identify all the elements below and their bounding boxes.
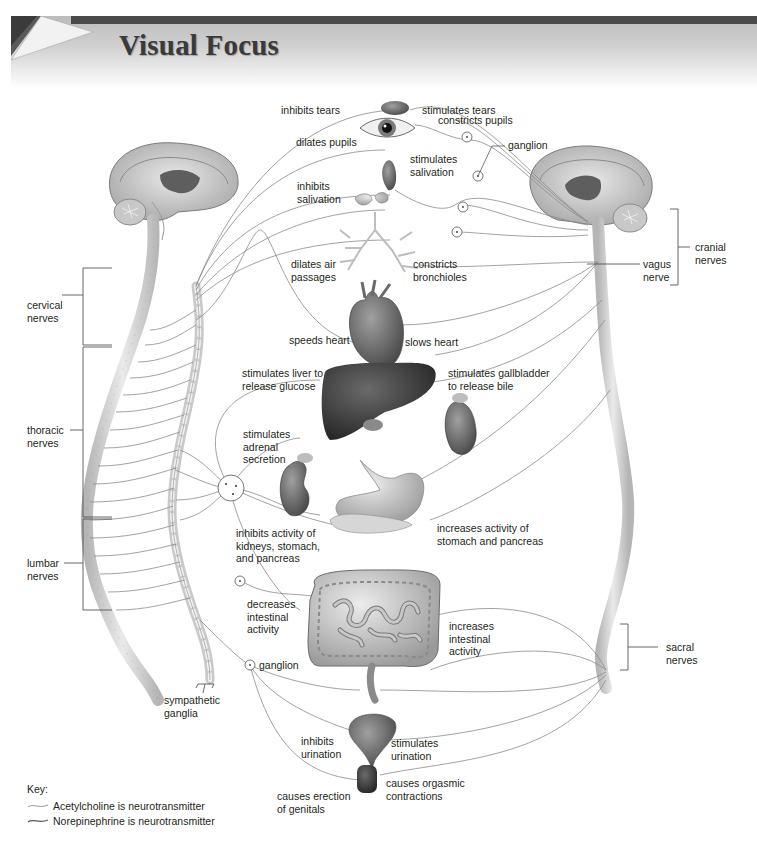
- label-lumbar-nerves: lumbarnerves: [27, 557, 59, 582]
- label-ganglion-bottom: ganglion: [259, 659, 299, 672]
- key-item-norepinephrine: Norepinephrine is neurotransmitter: [27, 815, 215, 827]
- label-sacral-nerves: sacralnerves: [666, 641, 698, 666]
- label-inhibits-salivation: inhibitssalivation: [297, 180, 341, 205]
- acetylcholine-line-icon: [27, 802, 49, 810]
- eye: [360, 118, 415, 137]
- right-adrenal: [452, 393, 468, 403]
- label-vagus-nerve: vagusnerve: [643, 258, 671, 283]
- right-kidney: [445, 402, 476, 455]
- key-title: Key:: [27, 783, 48, 795]
- label-ganglion-top: ganglion: [508, 139, 548, 152]
- label-cranial-nerves: cranialnerves: [695, 241, 727, 266]
- label-thoracic-nerves: thoracicnerves: [27, 424, 64, 449]
- right-brain: [530, 146, 652, 232]
- label-increases-intestinal: increasesintestinalactivity: [449, 620, 494, 658]
- label-inhibits-urination: inhibitsurination: [301, 735, 341, 760]
- left-adrenal: [297, 453, 313, 463]
- label-inhibits-kidneys: inhibits activity ofkidneys, stomach,and…: [236, 527, 320, 565]
- sympathetic-chain: [172, 286, 210, 680]
- label-decreases-intestinal: decreasesintestinalactivity: [247, 598, 295, 636]
- label-slows-heart: slows heart: [405, 336, 458, 349]
- label-constricts-pupils: constricts pupils: [438, 114, 513, 127]
- intestines: [308, 570, 440, 700]
- label-stimulates-gallbladder: stimulates gallbladderto release bile: [448, 367, 550, 392]
- key-item-acetylcholine: Acetylcholine is neurotransmitter: [27, 800, 205, 812]
- left-brain: [109, 143, 238, 240]
- parotid-gland: [382, 160, 396, 190]
- label-dilates-air-passages: dilates airpassages: [291, 258, 336, 283]
- label-sympathetic-ganglia: sympatheticganglia: [164, 694, 220, 719]
- right-spinal-cord: [598, 222, 628, 688]
- lacrimal-gland: [381, 101, 409, 115]
- label-stimulates-salivation: stimulatessalivation: [410, 153, 457, 178]
- norepinephrine-line-icon: [27, 817, 49, 825]
- bronchial-tree: [340, 212, 418, 272]
- label-cervical-nerves: cervicalnerves: [27, 299, 63, 324]
- gallbladder: [363, 419, 383, 431]
- label-causes-orgasmic: causes orgasmiccontractions: [386, 777, 465, 802]
- bladder: [349, 714, 396, 768]
- heart: [350, 292, 404, 369]
- label-stimulates-urination: stimulatesurination: [391, 737, 438, 762]
- label-speeds-heart: speeds heart: [289, 334, 350, 347]
- label-increases-stomach: increases activity ofstomach and pancrea…: [437, 522, 543, 547]
- label-dilates-pupils: dilates pupils: [296, 136, 357, 149]
- label-stimulates-liver: stimulates liver torelease glucose: [242, 367, 323, 392]
- left-kidney: [280, 461, 309, 516]
- label-constricts-bronchioles: constrictsbronchioles: [413, 258, 467, 283]
- submandibular-gland: [355, 193, 388, 205]
- label-causes-erection: causes erectionof genitals: [277, 790, 351, 815]
- autonomic-nervous-system-diagram: [0, 0, 757, 841]
- genital-organ: [357, 765, 377, 793]
- label-stimulates-adrenal: stimulatesadrenalsecretion: [243, 428, 290, 466]
- label-inhibits-tears: inhibits tears: [281, 104, 340, 117]
